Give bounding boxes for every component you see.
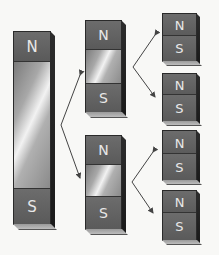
split-arrows: [0, 0, 219, 255]
magnet-division-diagram: N S N S N S N S N: [0, 0, 219, 255]
arrow-icon: [61, 35, 155, 213]
